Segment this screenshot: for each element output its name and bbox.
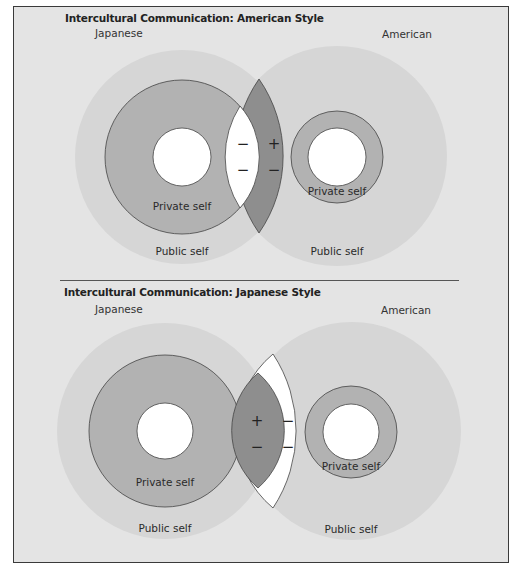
japanese-public-self-label: Public self <box>139 522 192 534</box>
japanese-label: Japanese <box>94 27 143 39</box>
plus-symbol: + <box>251 412 264 430</box>
diagram-title: Intercultural Communication: Japanese St… <box>64 286 321 298</box>
japanese-public-self-label: Public self <box>156 245 209 257</box>
minus-symbol: − <box>268 161 281 179</box>
japanese-core-circle <box>153 128 211 186</box>
plus-symbol: + <box>268 135 281 153</box>
american-public-self-label: Public self <box>325 523 378 535</box>
minus-symbol: − <box>282 438 295 456</box>
american-public-self-label: Public self <box>311 245 364 257</box>
japanese-label: Japanese <box>94 303 143 315</box>
american-core-circle <box>308 128 366 186</box>
minus-symbol: − <box>251 438 264 456</box>
american-label: American <box>382 28 432 40</box>
american-private-self-label: Private self <box>322 460 381 472</box>
japanese-private-self-label: Private self <box>136 476 195 488</box>
minus-symbol: − <box>237 135 250 153</box>
japanese-private-self-label: Private self <box>153 200 212 212</box>
intercultural-communication-diagram: Intercultural Communication: American St… <box>0 0 514 567</box>
american-label: American <box>381 304 431 316</box>
japanese-core-circle <box>137 403 193 459</box>
minus-symbol: − <box>237 161 250 179</box>
diagram-title: Intercultural Communication: American St… <box>65 12 324 24</box>
american-core-circle <box>323 404 379 460</box>
minus-symbol: − <box>282 412 295 430</box>
american-private-self-label: Private self <box>308 185 367 197</box>
